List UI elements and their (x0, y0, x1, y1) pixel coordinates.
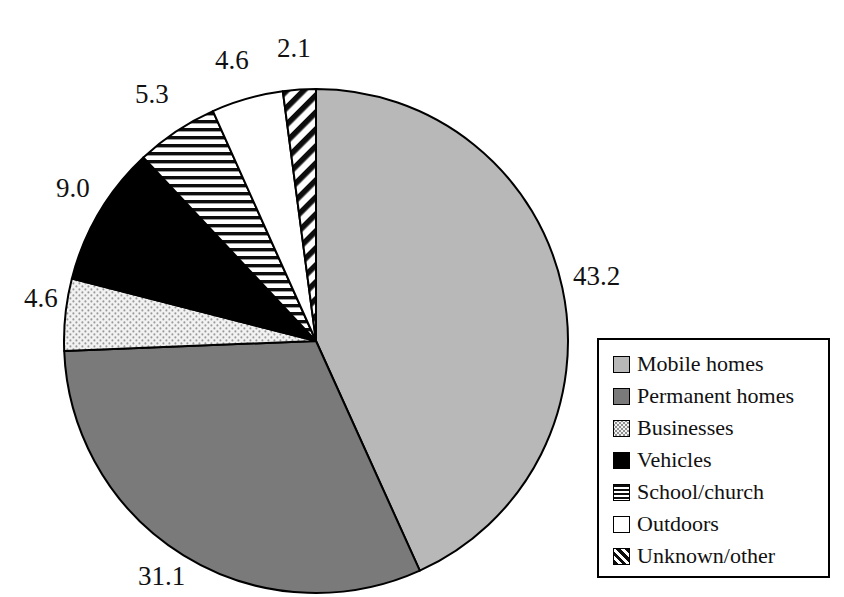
chart-legend: Mobile homesPermanent homesBusinessesVeh… (597, 338, 830, 578)
pie-slice-value-label: 2.1 (277, 35, 311, 62)
legend-swatch-icon (613, 484, 630, 501)
legend-item: Outdoors (613, 508, 828, 540)
legend-item-label: Businesses (637, 417, 734, 439)
legend-item: Vehicles (613, 444, 828, 476)
pie-slice-value-label: 4.6 (24, 285, 58, 312)
legend-item-label: School/church (637, 481, 764, 503)
legend-item-label: Vehicles (637, 449, 712, 471)
pie-slice-group (64, 89, 568, 593)
legend-item: Mobile homes (613, 348, 828, 380)
legend-swatch-icon (613, 516, 630, 533)
pie-slice-value-label: 5.3 (135, 81, 169, 108)
legend-item-label: Permanent homes (637, 385, 794, 407)
legend-item: Permanent homes (613, 380, 828, 412)
legend-item-label: Outdoors (637, 513, 719, 535)
legend-item: School/church (613, 476, 828, 508)
legend-swatch-icon (613, 548, 630, 565)
legend-item-label: Mobile homes (637, 353, 764, 375)
legend-swatch-icon (613, 420, 630, 437)
pie-slice-value-label: 43.2 (573, 263, 620, 290)
legend-swatch-icon (613, 452, 630, 469)
legend-swatch-icon (613, 356, 630, 373)
pie-chart-figure: 43.231.14.69.05.34.62.1 Mobile homesPerm… (0, 0, 844, 597)
pie-slice-value-label: 31.1 (138, 563, 185, 590)
legend-swatch-icon (613, 388, 630, 405)
legend-item: Unknown/other (613, 540, 828, 572)
legend-item: Businesses (613, 412, 828, 444)
legend-item-label: Unknown/other (637, 545, 775, 567)
pie-slice-value-label: 9.0 (56, 175, 90, 202)
pie-slice-value-label: 4.6 (215, 47, 249, 74)
